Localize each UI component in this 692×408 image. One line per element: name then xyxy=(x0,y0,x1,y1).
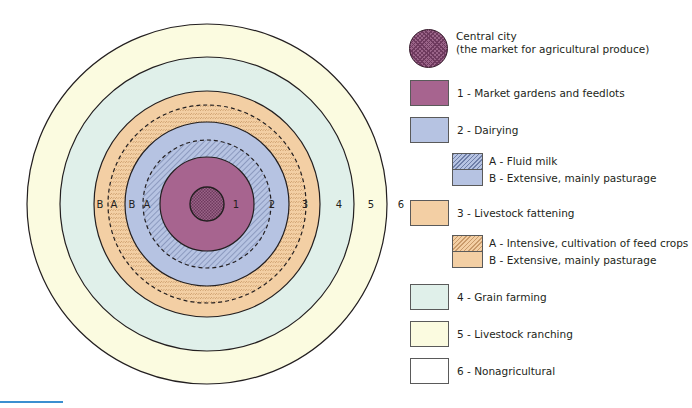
zone-2a-swatch xyxy=(452,153,483,170)
central-city-title: Central city xyxy=(456,30,517,43)
zone-2b-label: B xyxy=(129,199,136,210)
zone-2a-legend-label: A - Fluid milk xyxy=(489,155,557,168)
zone-2b-legend-label: B - Extensive, mainly pasturage xyxy=(489,172,656,185)
zone-3b-legend-label: B - Extensive, mainly pasturage xyxy=(489,254,656,267)
zone-3a-swatch xyxy=(452,235,483,252)
zone-2-number: 2 xyxy=(269,199,275,210)
zone-3-number: 3 xyxy=(302,199,308,210)
zone-1-number: 1 xyxy=(233,199,239,210)
central-city-subtitle: (the market for agricultural produce) xyxy=(456,43,649,56)
zone-2b-swatch xyxy=(452,169,483,186)
zone-1-legend-label: 1 - Market gardens and feedlots xyxy=(457,87,625,100)
zone-2-legend-label: 2 - Dairying xyxy=(457,124,518,137)
zone-6-legend-label: 6 - Nonagricultural xyxy=(457,365,555,378)
concentric-zones-diagram: B A B A 1 2 3 4 5 6 xyxy=(0,0,420,408)
zone-3a-legend-label: A - Intensive, cultivation of feed crops xyxy=(489,237,688,250)
zone-4-legend-label: 4 - Grain farming xyxy=(457,291,547,304)
zone-3a-label: A xyxy=(111,199,118,210)
zone-5-legend-label: 5 - Livestock ranching xyxy=(457,328,573,341)
zone-3b-label: B xyxy=(97,199,104,210)
bottom-accent-rule xyxy=(0,401,63,403)
zone-2a-label: A xyxy=(144,199,151,210)
zone-3b-swatch xyxy=(452,251,483,268)
zone-6-number: 6 xyxy=(398,199,404,210)
zone-3-legend-label: 3 - Livestock fattening xyxy=(457,207,575,220)
zone-4-number: 4 xyxy=(336,199,342,210)
central-city-circle xyxy=(190,187,224,221)
zone-5-number: 5 xyxy=(368,199,374,210)
